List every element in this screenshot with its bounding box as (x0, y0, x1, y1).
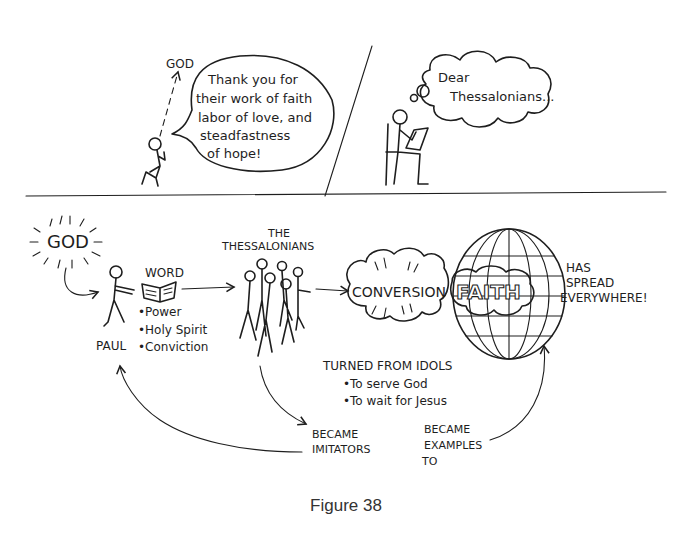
god-label-lower: GOD (47, 231, 89, 252)
horizontal-divider (26, 192, 666, 196)
dashed-arrow-to-god (160, 72, 178, 136)
thessalonians-crowd (240, 259, 310, 356)
illustration: GOD Thank you for their work of faith la… (0, 0, 692, 535)
seated-writing-figure (386, 110, 428, 185)
open-book-icon (142, 282, 176, 302)
figure-caption: Figure 38 (0, 496, 692, 516)
thessalonians-label: THE THESSALONIANS (221, 227, 314, 253)
word-label: WORD (145, 266, 184, 280)
word-bullets: •Power •Holy Spirit •Conviction (138, 305, 211, 354)
arrow-word-to-thessalonians (182, 287, 234, 289)
thought-text: Dear Thessalonians... (438, 70, 554, 104)
became-examples: BECAME EXAMPLES TO (421, 423, 486, 468)
arrow-examples-to-globe (490, 346, 545, 440)
became-imitators: BECAME IMITATORS (312, 428, 371, 456)
paul-label: PAUL (96, 339, 126, 353)
praying-figure (142, 138, 165, 186)
arrow-to-imitators (260, 366, 306, 424)
speech-text: Thank you for their work of faith labor … (196, 72, 316, 161)
god-label-top: GOD (166, 57, 194, 71)
faith-label: FAITH (456, 280, 521, 304)
conversion-label: CONVERSION (352, 284, 446, 300)
paul-figure (104, 266, 134, 326)
arrow-imitators-to-paul (120, 366, 302, 452)
turned-bullets: •To serve God •To wait for Jesus (343, 377, 447, 408)
arrow-god-to-paul (65, 268, 98, 295)
diagonal-divider (325, 46, 372, 196)
arrow-to-conversion (316, 289, 348, 291)
spread-text: HAS SPREAD EVERYWHERE! (560, 261, 647, 305)
turned-from-idols-title: TURNED FROM IDOLS (322, 359, 452, 373)
